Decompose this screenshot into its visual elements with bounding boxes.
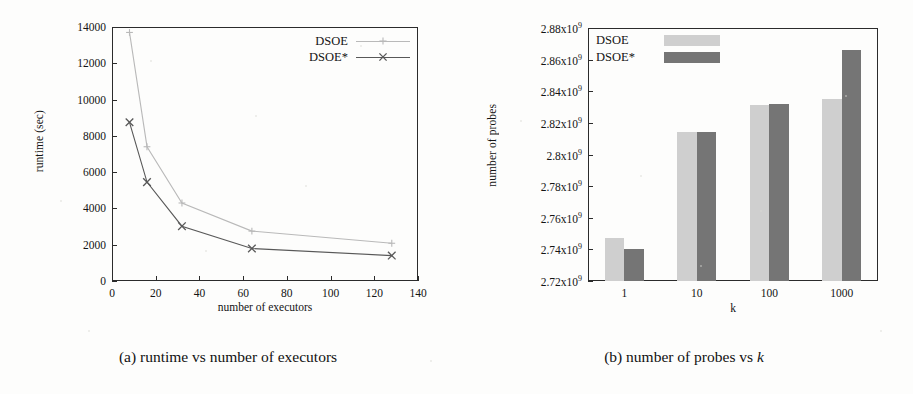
- y-tick-label-a: 12000: [40, 57, 106, 69]
- legend-label: DSOE: [315, 35, 348, 48]
- figure-row: runtime (sec) number of executors 020004…: [0, 0, 913, 394]
- line-chart-runtime: runtime (sec) number of executors 020004…: [0, 0, 456, 300]
- legend-color-swatch: [664, 35, 720, 46]
- x-tick-label-a: 40: [194, 287, 206, 299]
- plus-marker-icon: [376, 34, 390, 48]
- caption-a: (a) runtime vs number of executors: [0, 348, 456, 366]
- legend-color-swatch: [664, 52, 720, 63]
- x-tick-label-b: 1: [621, 287, 627, 299]
- y-tick-label-a: 4000: [40, 202, 106, 214]
- data-point-marker-plus: [248, 228, 255, 235]
- y-tick-label-b: 2.84x109: [500, 84, 582, 98]
- legend-item-DSOE: DSOE: [596, 32, 766, 49]
- data-point-marker-cross: [143, 178, 151, 186]
- x-tick-label-b: 10: [691, 287, 703, 299]
- caption-b-italic-k: k: [757, 348, 764, 365]
- y-tick-label-b: 2.88x109: [500, 21, 582, 35]
- bar-DSOE-k10: [677, 132, 697, 281]
- legend-label: DSOE: [596, 34, 654, 47]
- y-tick-label-a: 6000: [40, 166, 106, 178]
- legend-item-DSOE: DSOE: [228, 33, 410, 49]
- caption-b: (b) number of probes vs k: [456, 348, 912, 366]
- bar-DSOE-star-k1000: [842, 50, 862, 281]
- figure-panel-b: number of probes k 2.72x1092.74x1092.76x…: [456, 0, 912, 394]
- y-tick-label-a: 8000: [40, 130, 106, 142]
- data-point-marker-cross: [178, 222, 186, 230]
- legend-item-DSOE-star: DSOE*: [228, 49, 410, 65]
- x-tick-label-a: 20: [150, 287, 162, 299]
- cross-marker-icon: [376, 50, 390, 64]
- y-tick-label-b: 2.76x109: [500, 211, 582, 225]
- y-tick-label-a: 14000: [40, 21, 106, 33]
- legend-label: DSOE*: [309, 51, 348, 64]
- bar-DSOE-k1000: [822, 99, 842, 281]
- bar-DSOE-k100: [750, 105, 770, 281]
- series-line-DSOE-star: [130, 122, 392, 255]
- y-tick-label-b: 2.86x109: [500, 53, 582, 67]
- bar-chart-probes: number of probes k 2.72x1092.74x1092.76x…: [456, 0, 913, 300]
- bar-DSOE-star-k10: [697, 132, 717, 281]
- x-tick-mark-a: [418, 276, 419, 281]
- bar-DSOE-star-k100: [769, 104, 789, 281]
- legend-label: DSOE*: [596, 51, 654, 64]
- legend-item-DSOE-star: DSOE*: [596, 49, 766, 66]
- y-tick-label-b: 2.72x109: [500, 274, 582, 288]
- y-tick-label-a: 0: [40, 275, 106, 287]
- y-tick-label-a: 2000: [40, 239, 106, 251]
- x-axis-label-a: number of executors: [112, 301, 418, 313]
- data-point-marker-plus: [126, 29, 133, 36]
- caption-b-text: (b) number of probes vs: [604, 348, 757, 365]
- x-tick-label-b: 1000: [830, 287, 853, 299]
- legend-sample-plus-icon: [356, 34, 410, 48]
- x-tick-label-a: 120: [366, 287, 383, 299]
- y-tick-label-b: 2.8x109: [500, 148, 582, 162]
- x-axis-label-b: k: [588, 302, 878, 314]
- x-tick-label-a: 140: [409, 287, 426, 299]
- line-chart-series-a: [112, 27, 418, 281]
- y-tick-label-b: 2.74x109: [500, 242, 582, 256]
- figure-panel-a: runtime (sec) number of executors 020004…: [0, 0, 456, 394]
- x-tick-label-a: 0: [109, 287, 115, 299]
- x-tick-label-a: 60: [237, 287, 249, 299]
- y-tick-label-a: 10000: [40, 94, 106, 106]
- data-point-marker-cross: [126, 118, 134, 126]
- legend-b: DSOEDSOE*: [596, 32, 766, 66]
- y-tick-label-b: 2.82x109: [500, 116, 582, 130]
- y-axis-label-b: number of probes: [486, 104, 498, 187]
- x-tick-label-a: 80: [281, 287, 293, 299]
- legend-a: DSOEDSOE*: [228, 33, 410, 65]
- bar-DSOE-star-k1: [624, 249, 644, 281]
- data-point-marker-plus: [144, 143, 151, 150]
- bar-DSOE-k1: [605, 238, 625, 281]
- y-tick-mark-b: [588, 281, 593, 282]
- y-tick-mark-a: [112, 281, 117, 282]
- legend-sample-cross-icon: [356, 50, 410, 64]
- data-point-marker-plus: [388, 240, 395, 247]
- y-tick-label-b: 2.78x109: [500, 179, 582, 193]
- data-point-marker-plus: [179, 200, 186, 207]
- x-tick-label-a: 100: [322, 287, 339, 299]
- x-tick-label-b: 100: [761, 287, 778, 299]
